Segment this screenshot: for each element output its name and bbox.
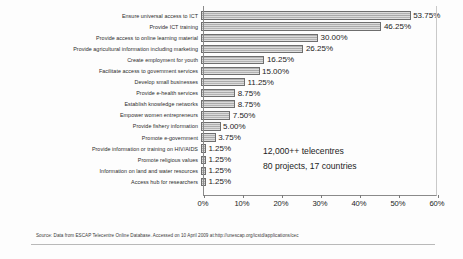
- bar: [201, 56, 264, 64]
- x-axis-tick-label: 20%: [273, 199, 288, 208]
- category-label: Provide agricultural information includi…: [0, 46, 201, 52]
- bar-row: Empower women entrepreneurs7.50%: [0, 110, 463, 121]
- bar: [201, 67, 260, 75]
- category-label: Create employment for youth: [0, 57, 201, 63]
- bar-row: Promote e-government3.75%: [0, 132, 463, 143]
- bar-row: Establish knowledge networks8.75%: [0, 99, 463, 110]
- bar: [201, 122, 221, 130]
- bar-row: Develop small businesses11.25%: [0, 77, 463, 88]
- bar-value-label: 8.75%: [238, 100, 261, 109]
- x-axis-tick: [360, 195, 361, 199]
- annotation-line: 80 projects, 17 countries: [263, 159, 443, 174]
- category-label: Information on land and water resources: [0, 168, 201, 174]
- x-axis-tick: [321, 195, 322, 199]
- bar-track: 46.25%: [201, 21, 463, 32]
- bar-row: Provide agricultural information includi…: [0, 43, 463, 54]
- category-label: Provide e-health services: [0, 90, 201, 96]
- source-note: Source: Data from ESCAP Telecentre Onlin…: [36, 233, 299, 239]
- annotation-line: 12,000++ telecentres: [263, 144, 443, 159]
- category-label: Provide access to online learning materi…: [0, 35, 201, 41]
- bar-track: 30.00%: [201, 32, 463, 43]
- x-axis-tick-label: 10%: [234, 199, 249, 208]
- x-axis-tick: [399, 195, 400, 199]
- category-label: Provide information or training on HIV/A…: [0, 146, 201, 152]
- x-axis-tick: [282, 195, 283, 199]
- x-axis-tick: [204, 195, 205, 199]
- bar-track: 11.25%: [201, 77, 463, 88]
- x-axis-tick-label: 0%: [198, 199, 209, 208]
- category-label: Establish knowledge networks: [0, 101, 201, 107]
- x-axis-tick-label: 40%: [351, 199, 366, 208]
- bar-value-label: 46.25%: [384, 22, 411, 31]
- bar-track: 16.25%: [201, 54, 463, 65]
- bar-track: 8.75%: [201, 99, 463, 110]
- bar: [201, 178, 206, 186]
- bar-track: 53.75%: [201, 10, 463, 21]
- category-label: Provide ICT training: [0, 24, 201, 30]
- category-label: Promote e-government: [0, 135, 201, 141]
- bar: [201, 156, 206, 164]
- bar-row: Provide access to online learning materi…: [0, 32, 463, 43]
- bar-value-label: 11.25%: [247, 78, 274, 87]
- bar-row: Provide ICT training46.25%: [0, 21, 463, 32]
- bar-value-label: 1.25%: [208, 144, 231, 153]
- bar-track: 7.50%: [201, 110, 463, 121]
- footer-divider: [31, 244, 435, 245]
- bar-row: Ensure universal access to ICT53.75%: [0, 10, 463, 21]
- bar: [201, 100, 235, 108]
- bar-row: Access hub for researchers1.25%: [0, 176, 463, 187]
- bar: [201, 89, 235, 97]
- bar: [201, 111, 230, 119]
- x-axis-tick: [438, 195, 439, 199]
- bar: [201, 133, 216, 141]
- bar-value-label: 1.25%: [208, 155, 231, 164]
- bar: [201, 11, 411, 19]
- category-label: Facilitate access to government services: [0, 68, 201, 74]
- bar-row: Provide e-health services8.75%: [0, 88, 463, 99]
- category-label: Promote religious values: [0, 157, 201, 163]
- bar-value-label: 3.75%: [218, 133, 241, 142]
- category-label: Ensure universal access to ICT: [0, 13, 201, 19]
- category-label: Access hub for researchers: [0, 179, 201, 185]
- x-axis-tick: [243, 195, 244, 199]
- bar-row: Facilitate access to government services…: [0, 65, 463, 76]
- bar-value-label: 26.25%: [306, 44, 333, 53]
- bar-row: Provide fishery information5.00%: [0, 121, 463, 132]
- bar-value-label: 1.25%: [208, 177, 231, 186]
- bar-chart: Ensure universal access to ICT53.75%Prov…: [0, 0, 463, 259]
- bar-value-label: 7.50%: [233, 111, 256, 120]
- bar: [201, 34, 318, 42]
- category-label: Empower women entrepreneurs: [0, 112, 201, 118]
- x-axis-tick-label: 60%: [429, 199, 444, 208]
- bar: [201, 78, 245, 86]
- chart-annotations: 12,000++ telecentres80 projects, 17 coun…: [263, 144, 443, 174]
- x-axis-tick-labels: 0%10%20%30%40%50%60%: [0, 199, 463, 213]
- x-axis-tick-label: 30%: [312, 199, 327, 208]
- bar-row: Create employment for youth16.25%: [0, 54, 463, 65]
- bar: [201, 144, 206, 152]
- bar-value-label: 15.00%: [262, 67, 289, 76]
- bar: [201, 22, 381, 30]
- bar: [201, 45, 303, 53]
- bar-track: 1.25%: [201, 176, 463, 187]
- category-label: Develop small businesses: [0, 79, 201, 85]
- bar-track: 26.25%: [201, 43, 463, 54]
- bar-value-label: 16.25%: [267, 55, 294, 64]
- bar-value-label: 30.00%: [321, 33, 348, 42]
- bar-track: 15.00%: [201, 65, 463, 76]
- bar-value-label: 5.00%: [223, 122, 246, 131]
- x-axis-tick-label: 50%: [390, 199, 405, 208]
- bar-value-label: 1.25%: [208, 166, 231, 175]
- bar: [201, 167, 206, 175]
- bar-track: 5.00%: [201, 121, 463, 132]
- bar-value-label: 8.75%: [238, 89, 261, 98]
- bar-track: 8.75%: [201, 88, 463, 99]
- bar-track: 3.75%: [201, 132, 463, 143]
- category-label: Provide fishery information: [0, 123, 201, 129]
- bar-value-label: 53.75%: [413, 11, 440, 20]
